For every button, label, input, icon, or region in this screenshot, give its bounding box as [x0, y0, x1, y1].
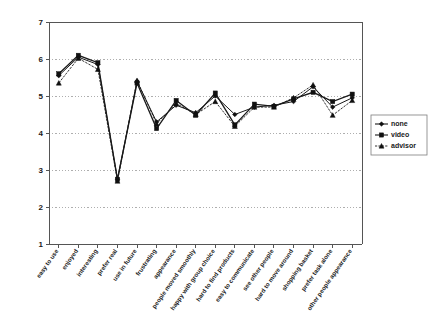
data-point-triangle	[135, 78, 140, 83]
data-point-square	[311, 90, 315, 94]
y-tick-label: 2	[39, 203, 44, 212]
line-chart: 1234567 easy to useenjoyedinterestingpre…	[0, 0, 439, 330]
data-point-square	[213, 91, 217, 95]
legend-label-advisor: advisor	[391, 142, 416, 149]
y-tick-label: 3	[39, 166, 44, 175]
data-series	[56, 53, 354, 183]
data-point-triangle	[213, 99, 218, 104]
data-point-triangle	[330, 113, 335, 118]
chart-legend: nonevideoadvisor	[371, 115, 427, 155]
y-tick-label: 1	[39, 240, 44, 249]
series-line-video	[59, 55, 352, 179]
y-tick-label: 5	[39, 92, 44, 101]
y-tick-label: 4	[39, 129, 44, 138]
x-axis-ticks	[59, 244, 352, 248]
data-point-square	[154, 126, 158, 130]
series-line-none	[59, 57, 352, 179]
gridlines	[49, 59, 362, 207]
data-point-square	[350, 92, 354, 96]
data-point-square	[331, 99, 335, 103]
chart-figure: 1234567 easy to useenjoyedinterestingpre…	[0, 0, 439, 330]
y-tick-label: 7	[39, 18, 44, 27]
series-line-advisor	[59, 58, 352, 181]
x-axis-label: easy to use	[35, 247, 60, 279]
data-point-triangle	[56, 81, 61, 86]
data-point-triangle	[95, 67, 100, 72]
data-point-square	[57, 72, 61, 76]
y-tick-label: 6	[39, 55, 44, 64]
data-point-triangle	[311, 82, 316, 87]
legend-label-none: none	[391, 120, 408, 127]
data-point-square	[379, 133, 383, 137]
data-point-square	[96, 61, 100, 65]
legend-label-video: video	[391, 131, 409, 138]
x-axis-labels: easy to useenjoyedinterestingprefer real…	[35, 247, 354, 311]
y-axis-ticks: 1234567	[39, 18, 49, 249]
x-axis-label: enjoyed	[60, 247, 79, 270]
